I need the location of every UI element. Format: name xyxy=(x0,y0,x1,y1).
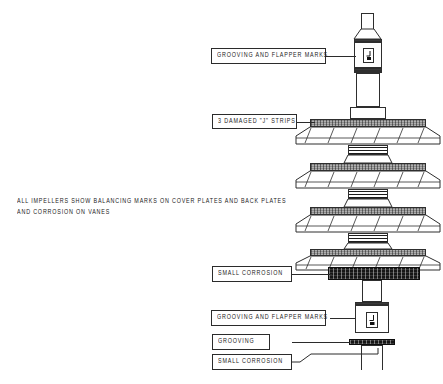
callout-damaged-j-strips[interactable]: 3 DAMAGED "J" STRIPS xyxy=(212,114,297,129)
callout-label: GROOVING AND FLAPPER MARKS xyxy=(217,315,328,321)
callout-small-corrosion-mid[interactable]: SMALL CORROSION xyxy=(212,266,292,282)
callout-small-corrosion-bottom[interactable]: SMALL CORROSION xyxy=(212,354,292,370)
callout-grooving-flapper-top[interactable]: GROOVING AND FLAPPER MARKS xyxy=(211,48,326,64)
drawing-canvas: GROOVING AND FLAPPER MARKS 3 DAMAGED "J"… xyxy=(0,0,443,384)
callout-label: GROOVING xyxy=(218,339,254,345)
general-note: ALL IMPELLERS SHOW BALANCING MARKS ON CO… xyxy=(17,196,286,218)
callout-label: GROOVING AND FLAPPER MARKS xyxy=(217,53,328,59)
callout-label: 3 DAMAGED "J" STRIPS xyxy=(218,118,296,124)
callout-label: SMALL CORROSION xyxy=(218,359,283,365)
callout-label: SMALL CORROSION xyxy=(218,271,283,277)
callout-grooving[interactable]: GROOVING xyxy=(212,334,270,350)
general-note-line-2: AND CORROSION ON VANES xyxy=(17,206,286,219)
callout-grooving-flapper-bottom[interactable]: GROOVING AND FLAPPER MARKS xyxy=(211,310,326,326)
